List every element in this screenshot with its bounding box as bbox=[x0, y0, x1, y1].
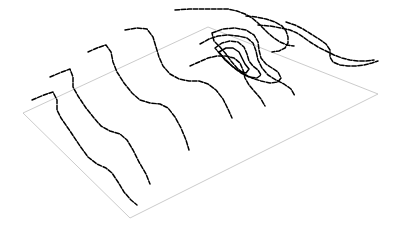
contour-line bbox=[50, 69, 150, 184]
contour-line bbox=[258, 25, 374, 61]
contour-line bbox=[88, 45, 189, 150]
contour-line bbox=[200, 35, 295, 96]
base-parallelogram bbox=[23, 27, 378, 218]
terrain-contour-figure bbox=[0, 0, 396, 229]
contour-line bbox=[286, 22, 378, 66]
contour-line bbox=[125, 28, 232, 118]
terrain-contour-canvas bbox=[0, 0, 396, 229]
contour-line bbox=[32, 92, 137, 205]
contour-lines-group bbox=[32, 9, 378, 205]
base-plane-group bbox=[23, 27, 378, 218]
